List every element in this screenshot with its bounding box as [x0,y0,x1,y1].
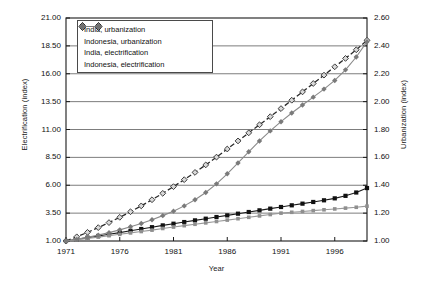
y-axis-left-tick-label: 1.00 [27,236,61,245]
data-point [236,212,240,216]
y-axis-left-tick-label: 8.50 [27,152,61,161]
data-point [95,225,101,231]
data-point [118,233,122,237]
legend-symbol-gray-diamond [78,21,103,32]
data-point [149,197,155,203]
y-axis-left-tick-label: 6.00 [27,180,61,189]
x-axis-title: Year [66,264,367,273]
chart-container: Electrification (index) Urbanization (in… [0,0,426,284]
legend-item-india-electrification: India, electrification [82,47,208,59]
data-point [182,224,186,228]
data-point [311,209,315,213]
y-axis-right-tick-label: 1.60 [374,152,408,161]
data-point [161,227,165,231]
data-point [333,207,337,211]
data-point [290,203,294,207]
data-point [193,222,197,226]
data-point [247,210,251,214]
data-point [300,202,304,206]
data-point [128,209,134,215]
legend-label: Indonesia, urbanization [84,37,162,46]
y-axis-right-tick-label: 2.40 [374,41,408,50]
data-point [128,224,133,229]
data-point [117,214,123,220]
data-point [268,207,272,211]
y-axis-right-tick-label: 1.40 [374,180,408,189]
legend-item-indonesia-electrification: Indonesia, electrification [82,59,208,71]
y-axis-left-tick-label: 13.50 [27,97,61,106]
data-point [332,64,338,70]
data-point [172,225,176,229]
data-point [138,203,144,209]
data-point [333,196,337,200]
data-point [365,186,369,190]
data-point [106,220,112,226]
x-axis-tick-label: 1981 [154,247,194,256]
data-point [204,221,208,225]
data-point [160,213,165,218]
chart-legend: India, urbanization Indonesia, urbanizat… [77,20,213,73]
data-point [343,194,347,198]
legend-label: Indonesia, electrification [84,60,164,69]
data-point [204,217,208,221]
data-point [150,228,154,232]
x-axis-tick-label: 1971 [46,247,86,256]
data-point [344,206,348,210]
data-point [247,216,251,220]
x-axis-tick-label: 1991 [261,247,301,256]
y-axis-right-tick-label: 1.00 [374,236,408,245]
y-axis-left-title: Electrification (index) [20,45,29,185]
data-point [139,230,143,234]
data-point [301,210,305,214]
data-point [225,213,229,217]
data-point [182,203,187,208]
data-point [279,211,283,215]
data-point [171,222,175,226]
chart-plot-area [0,0,426,284]
data-point [311,200,315,204]
data-point [225,218,229,222]
data-point [214,215,218,219]
y-axis-right-tick-label: 1.20 [374,208,408,217]
legend-item-indonesia-urbanization: Indonesia, urbanization [82,36,208,48]
y-axis-left-tick-label: 11.00 [27,125,61,134]
y-axis-right-title: Urbanization (index) [399,45,408,185]
data-point [258,214,262,218]
y-axis-left-tick-label: 16.00 [27,69,61,78]
data-point [215,220,219,224]
y-axis-right-tick-label: 2.60 [374,13,408,22]
data-point [139,221,144,226]
data-point [354,190,358,194]
data-point [278,106,284,112]
data-point [290,210,294,214]
data-point [236,217,240,221]
data-point [268,213,272,217]
data-point [354,205,358,209]
data-point [257,208,261,212]
data-point [365,204,369,208]
y-axis-left-tick-label: 21.00 [27,13,61,22]
data-point [193,218,197,222]
data-point [279,205,283,209]
legend-label: India, electrification [84,48,148,57]
data-point [322,208,326,212]
y-axis-right-tick-label: 2.20 [374,69,408,78]
x-axis-tick-label: 1986 [207,247,247,256]
y-axis-left-tick-label: 18.50 [27,41,61,50]
y-axis-right-tick-label: 1.80 [374,125,408,134]
y-axis-right-tick-label: 2.00 [374,97,408,106]
data-point [182,220,186,224]
data-point [129,231,133,235]
x-axis-tick-label: 1976 [100,247,140,256]
data-point [85,229,91,235]
y-axis-left-tick-label: 3.50 [27,208,61,217]
data-point [149,217,154,222]
x-axis-tick-label: 1996 [315,247,355,256]
data-point [322,198,326,202]
